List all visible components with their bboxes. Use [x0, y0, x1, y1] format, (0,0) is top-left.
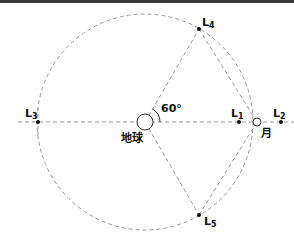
l5-moon-line [199, 122, 257, 215]
earth-label: 地球 [121, 131, 144, 145]
l5-point [197, 213, 201, 217]
line-to-l5 [145, 122, 199, 215]
angle-label: 60° [161, 102, 182, 115]
moon-label: 月 [260, 127, 272, 140]
l1-label: L1 [231, 107, 244, 121]
l5-label: L5 [204, 215, 217, 229]
l4-label: L4 [202, 16, 215, 30]
angle-arc [153, 109, 161, 122]
moon-icon [253, 118, 261, 126]
l2-label: L2 [273, 107, 286, 121]
l4-point [197, 27, 201, 31]
l3-label: L3 [25, 107, 38, 121]
earth-icon [137, 114, 153, 130]
lagrange-diagram: L1 L2 L3 L4 L5 60° 地球 月 [0, 0, 294, 240]
l4-moon-line [199, 29, 257, 122]
